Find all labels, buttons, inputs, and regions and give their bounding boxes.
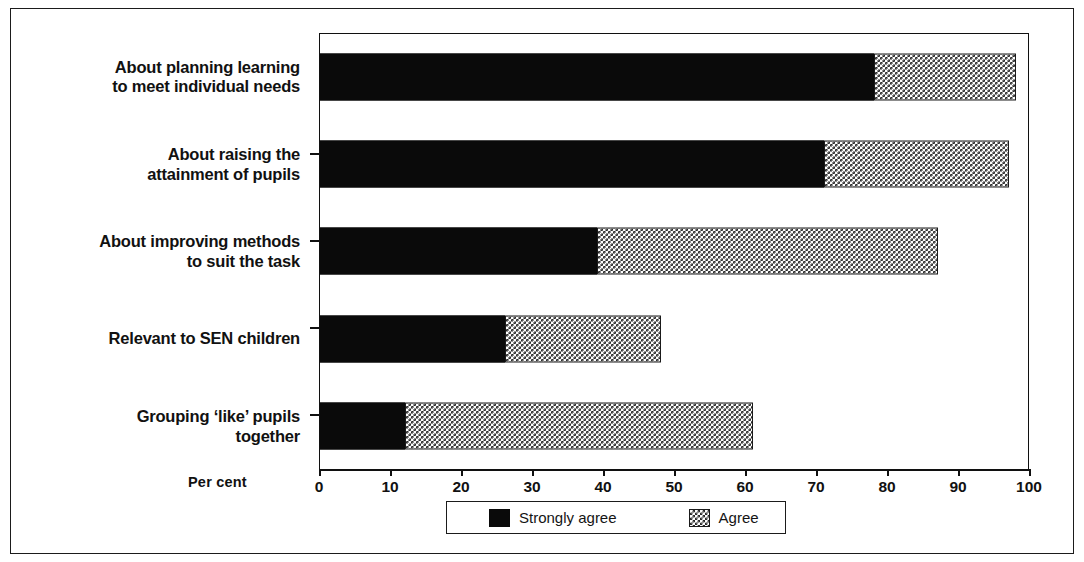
bar-rows: About planning learning to meet individu… bbox=[0, 33, 1084, 470]
x-tick-mark bbox=[390, 469, 392, 476]
x-tick-mark bbox=[1029, 469, 1031, 476]
x-tick-mark bbox=[816, 469, 818, 476]
x-tick-label: 80 bbox=[878, 478, 895, 496]
x-tick-mark bbox=[461, 469, 463, 476]
x-tick-label: 60 bbox=[736, 478, 753, 496]
legend-item-strongly-agree: Strongly agree bbox=[489, 509, 617, 527]
bar-segment-strongly-agree bbox=[320, 315, 505, 362]
bar-segment-agree bbox=[505, 315, 661, 362]
bar-segment-agree bbox=[824, 141, 1009, 188]
category-label: About improving methods to suit the task bbox=[30, 232, 300, 271]
x-tick-label: 20 bbox=[452, 478, 469, 496]
stacked-bar bbox=[320, 403, 753, 450]
x-tick-mark bbox=[603, 469, 605, 476]
bar-segment-agree bbox=[405, 403, 753, 450]
x-tick-mark bbox=[319, 469, 321, 476]
stacked-bar bbox=[320, 141, 1009, 188]
x-tick-label: 40 bbox=[594, 478, 611, 496]
x-axis-title: Per cent bbox=[188, 474, 247, 490]
bar-segment-strongly-agree bbox=[320, 228, 597, 275]
bar-segment-strongly-agree bbox=[320, 403, 405, 450]
legend-swatch-solid-icon bbox=[489, 509, 510, 527]
x-tick-label: 70 bbox=[807, 478, 824, 496]
chart-row: About planning learning to meet individu… bbox=[0, 33, 1084, 120]
legend-label: Agree bbox=[719, 509, 759, 526]
chart-legend: Strongly agree Agree bbox=[446, 501, 786, 534]
stacked-bar bbox=[320, 228, 938, 275]
legend-swatch-checkerboard-icon bbox=[689, 509, 710, 527]
bar-segment-agree bbox=[874, 53, 1016, 100]
x-tick-label: 100 bbox=[1016, 478, 1042, 496]
x-tick-label: 50 bbox=[665, 478, 682, 496]
bar-segment-agree bbox=[597, 228, 938, 275]
x-tick-label: 30 bbox=[523, 478, 540, 496]
chart-row: About raising the attainment of pupils bbox=[0, 120, 1084, 207]
category-label: About raising the attainment of pupils bbox=[30, 145, 300, 184]
category-label: Grouping ‘like’ pupils together bbox=[30, 407, 300, 446]
x-tick-mark bbox=[745, 469, 747, 476]
chart-row: Grouping ‘like’ pupils together bbox=[0, 383, 1084, 470]
bar-segment-strongly-agree bbox=[320, 53, 874, 100]
stacked-bar bbox=[320, 315, 661, 362]
legend-label: Strongly agree bbox=[519, 509, 617, 526]
chart-row: Relevant to SEN children bbox=[0, 295, 1084, 382]
chart-figure: About planning learning to meet individu… bbox=[0, 0, 1084, 562]
category-label: Relevant to SEN children bbox=[30, 329, 300, 348]
x-tick-label: 10 bbox=[381, 478, 398, 496]
legend-item-agree: Agree bbox=[689, 509, 759, 527]
stacked-bar bbox=[320, 53, 1016, 100]
x-tick-mark bbox=[958, 469, 960, 476]
category-label: About planning learning to meet individu… bbox=[30, 57, 300, 96]
x-tick-label: 0 bbox=[315, 478, 324, 496]
x-tick-mark bbox=[674, 469, 676, 476]
x-tick-mark bbox=[532, 469, 534, 476]
bar-segment-strongly-agree bbox=[320, 141, 824, 188]
x-tick-label: 90 bbox=[949, 478, 966, 496]
x-tick-mark bbox=[887, 469, 889, 476]
chart-row: About improving methods to suit the task bbox=[0, 208, 1084, 295]
